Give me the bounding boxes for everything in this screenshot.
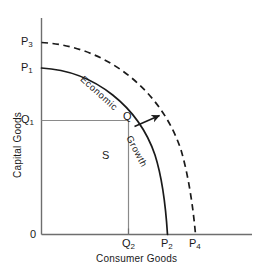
point-label-q1-base: Q xyxy=(21,113,30,125)
point-label-q2: Q2 xyxy=(122,238,135,249)
area-label-s: S xyxy=(102,150,109,161)
point-label-p2-subscript: 2 xyxy=(168,242,172,251)
point-label-q2-base: Q xyxy=(122,237,131,249)
point-label-p1: P1 xyxy=(21,62,33,73)
point-label-p3: P3 xyxy=(21,36,33,47)
origin-label: 0 xyxy=(30,229,36,240)
x-axis-title: Consumer Goods xyxy=(96,254,177,264)
point-label-p3-subscript: 3 xyxy=(28,40,32,49)
point-label-q2-subscript: 2 xyxy=(131,242,135,251)
point-label-p4: P4 xyxy=(189,238,201,249)
point-label-q1-subscript: 1 xyxy=(30,118,34,127)
point-label-q: Q xyxy=(123,111,132,122)
point-label-p4-subscript: 4 xyxy=(196,242,200,251)
ppf-figure: Capital Goods Consumer Goods 0 P3 P1 Q1 … xyxy=(0,0,267,271)
point-label-p1-subscript: 1 xyxy=(28,66,32,75)
point-label-q1: Q1 xyxy=(21,114,34,125)
point-label-p2: P2 xyxy=(161,238,173,249)
